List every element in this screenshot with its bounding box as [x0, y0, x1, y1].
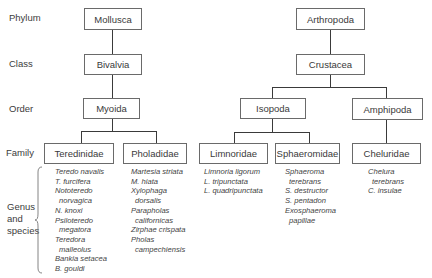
node-class-bivalvia: Bivalvia [84, 54, 142, 75]
species-item: S. pentadon [285, 196, 336, 206]
species-list-limnoridae: Limnoria ligorum L. tripunctata L. quadr… [204, 167, 263, 196]
species-item: L. tripunctata [204, 177, 263, 187]
node-phylum-mollusca: Mollusca [84, 8, 142, 30]
species-item: Xylophaga [131, 186, 185, 196]
node-class-crustacea: Crustacea [296, 54, 365, 75]
species-item: Zirphae crispata [131, 225, 185, 235]
connector-line [386, 87, 387, 98]
species-item: T. furcifera [55, 177, 107, 187]
species-item: Limnoria ligorum [204, 167, 263, 177]
connector-line [330, 75, 331, 87]
node-phylum-arthropoda: Arthropoda [296, 8, 365, 30]
species-item: Exosphaeroma [285, 206, 336, 216]
node-order-isopoda: Isopoda [240, 98, 306, 119]
rank-label-order: Order [9, 103, 33, 114]
species-item: terebrans [285, 177, 336, 187]
node-order-myoida: Myoida [83, 98, 140, 119]
node-family-pholadidae: Pholadidae [123, 143, 187, 164]
connector-line [272, 87, 387, 88]
connector-line [234, 132, 235, 143]
species-item: megatora [55, 225, 107, 235]
species-list-pholadidae: Martesia striata M. hiata Xylophaga dors… [131, 167, 185, 254]
node-order-amphipoda: Amphipoda [352, 98, 423, 120]
species-item: Bankia setacea [55, 254, 107, 264]
species-item: Pholas [131, 235, 185, 245]
species-item: M. hiata [131, 177, 185, 187]
rank-label-phylum: Phylum [9, 12, 41, 23]
connector-line [309, 132, 310, 143]
species-list-sphaeromidae: Sphaeroma terebrans S. destructor S. pen… [285, 167, 336, 225]
node-family-cheluridae: Cheluridae [352, 143, 421, 164]
species-list-teredinidae: Teredo navalis T. furcifera Nototeredo n… [55, 167, 107, 274]
connector-line [234, 132, 310, 133]
connector-line [272, 119, 273, 132]
connector-line [112, 75, 113, 98]
connector-line [272, 87, 273, 98]
species-item: campechiensis [131, 245, 185, 255]
species-item: Teredo navalis [55, 167, 107, 177]
species-item: terebrans [368, 177, 404, 187]
species-item: Teredora [55, 235, 107, 245]
species-item: Parapholas [131, 206, 185, 216]
species-item: Sphaeroma [285, 167, 336, 177]
species-item: L. quadripunctata [204, 186, 263, 196]
node-family-limnoridae: Limnoridae [199, 143, 268, 164]
species-item: S. destructor [285, 186, 336, 196]
connector-line [81, 131, 157, 132]
connector-line [330, 30, 331, 54]
rank-label-class: Class [9, 58, 33, 69]
species-item: Nototeredo [55, 186, 107, 196]
connector-line [112, 119, 113, 131]
species-item: Psiloteredo [55, 216, 107, 226]
species-item: malleolus [55, 245, 107, 255]
species-item: californicas [131, 216, 185, 226]
species-item: papillae [285, 216, 336, 226]
node-family-teredinidae: Teredinidae [44, 143, 114, 164]
species-item: norvagica [55, 196, 107, 206]
connector-line [81, 131, 82, 143]
species-item: N. knoxi [55, 206, 107, 216]
connector-line [112, 30, 113, 54]
node-family-sphaeromidae: Sphaeromidae [275, 143, 340, 164]
species-item: dorsalis [131, 196, 185, 206]
species-item: B. gouldi [55, 264, 107, 274]
connector-line [386, 120, 387, 143]
rank-label-family: Family [6, 147, 34, 158]
species-list-cheluridae: Chelura terebrans C. insulae [368, 167, 404, 196]
curly-brace-icon [34, 166, 44, 274]
connector-line [156, 131, 157, 143]
species-item: Chelura [368, 167, 404, 177]
species-item: Martesia striata [131, 167, 185, 177]
species-item: C. insulae [368, 186, 404, 196]
